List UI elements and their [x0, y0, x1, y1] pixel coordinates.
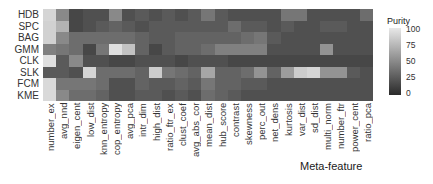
- heatmap-cell: [109, 9, 122, 21]
- heatmap-cell: [307, 55, 320, 67]
- heatmap-cell: [267, 44, 280, 56]
- heatmap-cell: [281, 78, 294, 90]
- heatmap-cell: [254, 78, 267, 90]
- heatmap-cell: [43, 55, 56, 67]
- heatmap-cell: [241, 78, 254, 90]
- heatmap-cell: [320, 44, 333, 56]
- heatmap-cell: [188, 44, 201, 56]
- heatmap-cell: [162, 21, 175, 33]
- heatmap-cell: [69, 90, 82, 102]
- heatmap-cell: [294, 67, 307, 79]
- heatmap-cell: [83, 9, 96, 21]
- heatmap-cell: [83, 21, 96, 33]
- heatmap-cell: [96, 44, 109, 56]
- heatmap-cell: [320, 78, 333, 90]
- x-label-cop-entropy: cop_entropy: [109, 103, 122, 163]
- heatmap-cell: [360, 67, 373, 79]
- heatmap-cell: [333, 32, 346, 44]
- heatmap-cell: [56, 90, 69, 102]
- heatmap-cell: [333, 44, 346, 56]
- x-label-eigen-cent: eigen_cent: [69, 103, 82, 163]
- y-label-gmm: GMM: [0, 44, 39, 56]
- heatmap-cell: [43, 9, 56, 21]
- x-label-net-dens: net_dens: [267, 103, 280, 163]
- x-label-low-dist: low_dist: [83, 103, 96, 163]
- heatmap-cell: [109, 44, 122, 56]
- heatmap-cell: [307, 90, 320, 102]
- heatmap-cell: [333, 67, 346, 79]
- heatmap-cell: [254, 67, 267, 79]
- heatmap-cell: [347, 32, 360, 44]
- x-label-hub-score: hub_score: [215, 103, 228, 163]
- x-tick-label: avg_nnd: [58, 103, 69, 163]
- heatmap-cell: [360, 78, 373, 90]
- x-label-var-dist: var_dist: [294, 103, 307, 163]
- heatmap-cell: [188, 9, 201, 21]
- y-label-hdb: HDB: [0, 9, 39, 21]
- heatmap-cell: [135, 21, 148, 33]
- heatmap-cell: [320, 90, 333, 102]
- heatmap-cell: [360, 90, 373, 102]
- x-tick-label: hub_score: [217, 103, 228, 163]
- x-axis-labels: number_exavg_nndeigen_centlow_distknn_en…: [43, 103, 373, 163]
- x-label-power-cent: power_cent: [347, 103, 360, 163]
- heatmap-cell: [122, 32, 135, 44]
- heatmap-cell: [267, 78, 280, 90]
- heatmap-cell: [241, 21, 254, 33]
- heatmap-cell: [96, 21, 109, 33]
- heatmap-cell: [360, 44, 373, 56]
- heatmap-cell: [347, 67, 360, 79]
- heatmap-cell: [135, 9, 148, 21]
- heatmap-cell: [43, 44, 56, 56]
- heatmap-cell: [175, 44, 188, 56]
- heatmap-cell: [254, 32, 267, 44]
- heatmap-cell: [175, 78, 188, 90]
- heatmap-cell: [188, 32, 201, 44]
- heatmap-cell: [228, 9, 241, 21]
- heatmap-cell: [188, 55, 201, 67]
- heatmap-cell: [175, 90, 188, 102]
- heatmap-cell: [333, 9, 346, 21]
- heatmap-cell: [307, 21, 320, 33]
- heatmap-cell: [320, 9, 333, 21]
- heatmap-cell: [135, 67, 148, 79]
- x-tick-label: skewness: [243, 103, 254, 163]
- heatmap-cell: [135, 44, 148, 56]
- x-tick-label: multi_norm: [322, 103, 333, 163]
- heatmap-cell: [162, 90, 175, 102]
- y-label-clk: CLK: [0, 55, 39, 67]
- heatmap-cell: [188, 67, 201, 79]
- heatmap-cell: [69, 55, 82, 67]
- heatmap-cell: [215, 67, 228, 79]
- heatmap-cell: [241, 90, 254, 102]
- heatmap-cell: [254, 55, 267, 67]
- heatmap-cell: [215, 55, 228, 67]
- x-tick-label: avg_pca: [124, 103, 135, 163]
- heatmap-cell: [267, 21, 280, 33]
- heatmap-cell: [135, 90, 148, 102]
- legend-tick-0: 0: [406, 88, 411, 98]
- legend-colorbar: [389, 28, 401, 95]
- heatmap-cell: [281, 44, 294, 56]
- heatmap-cell: [215, 21, 228, 33]
- heatmap-cell: [333, 90, 346, 102]
- heatmap-cell: [83, 78, 96, 90]
- heatmap-cell: [149, 55, 162, 67]
- y-label-spc: SPC: [0, 21, 39, 33]
- x-label-knn-entropy: knn_entropy: [96, 103, 109, 163]
- heatmap-cell: [83, 55, 96, 67]
- heatmap-cell: [96, 67, 109, 79]
- heatmap-cell: [96, 78, 109, 90]
- heatmap-cell: [56, 21, 69, 33]
- heatmap-cell: [215, 32, 228, 44]
- heatmap-cell: [162, 67, 175, 79]
- heatmap-cell: [109, 55, 122, 67]
- heatmap-cell: [162, 44, 175, 56]
- heatmap-cell: [254, 9, 267, 21]
- heatmap-cell: [281, 67, 294, 79]
- heatmap-cell: [43, 67, 56, 79]
- heatmap-cell: [281, 32, 294, 44]
- x-tick-label: cop_entropy: [111, 103, 122, 163]
- x-label-avg-nnd: avg_nnd: [56, 103, 69, 163]
- heatmap-cell: [360, 21, 373, 33]
